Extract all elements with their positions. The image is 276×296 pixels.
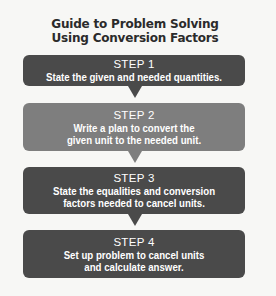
step-3-text-line-2: factors needed to cancel units. — [32, 197, 236, 209]
arrow-down-icon — [128, 214, 142, 226]
step-3-box: STEP 3 State the equalities and conversi… — [23, 167, 245, 214]
step-4-label: STEP 4 — [23, 236, 245, 249]
title-line-1: Guide to Problem Solving — [0, 17, 270, 31]
step-2-text-line-1: Write a plan to convert the — [32, 122, 236, 134]
title-line-2: Using Conversion Factors — [0, 31, 270, 45]
step-4-text-line-2: and calculate answer. — [32, 261, 236, 273]
step-1-text-line-1: State the given and needed quantities. — [32, 71, 236, 83]
step-3-label: STEP 3 — [23, 172, 245, 185]
step-2-label: STEP 2 — [23, 109, 245, 122]
step-1-box: STEP 1 State the given and needed quanti… — [23, 55, 245, 86]
arrow-down-icon — [128, 86, 142, 98]
step-4-box: STEP 4 Set up problem to cancel units an… — [23, 230, 245, 278]
step-2-box: STEP 2 Write a plan to convert the given… — [23, 103, 245, 151]
step-3-text-line-1: State the equalities and conversion — [32, 185, 236, 197]
step-1-label: STEP 1 — [23, 58, 245, 71]
step-2-text-line-2: given unit to the needed unit. — [32, 134, 236, 146]
step-4-text-line-1: Set up problem to cancel units — [32, 249, 236, 261]
arrow-down-icon — [128, 151, 142, 163]
diagram-title: Guide to Problem Solving Using Conversio… — [0, 17, 270, 45]
